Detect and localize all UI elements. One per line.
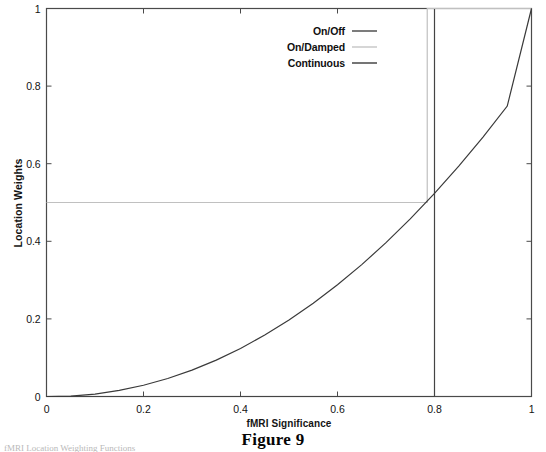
- y-tick-label: 0.2: [26, 313, 40, 325]
- legend-label-continuous: Continuous: [288, 57, 345, 69]
- series-line-on-damped: [47, 9, 532, 203]
- page-edge-artifact: fMRI Location Weighting Functions: [4, 444, 234, 452]
- y-tick-label: 0.6: [26, 158, 40, 170]
- legend-label-on-damped: On/Damped: [287, 41, 345, 53]
- x-tick-label: 0: [44, 403, 50, 415]
- x-tick-label: 0.6: [330, 403, 344, 415]
- x-tick-label: 1: [529, 403, 535, 415]
- y-tick-label: 0.8: [26, 80, 40, 92]
- x-axis-label: fMRI Significance: [246, 418, 331, 429]
- x-tick-label: 0.2: [136, 403, 150, 415]
- y-tick-label: 1: [35, 3, 41, 15]
- y-tick-label: 0: [35, 391, 41, 403]
- x-tick-label: 0.4: [233, 403, 247, 415]
- legend-label-on-off: On/Off: [313, 25, 345, 37]
- x-tick-label: 0.8: [427, 403, 441, 415]
- y-tick-label: 0.4: [26, 235, 40, 247]
- y-axis-label: Location Weights: [12, 158, 24, 247]
